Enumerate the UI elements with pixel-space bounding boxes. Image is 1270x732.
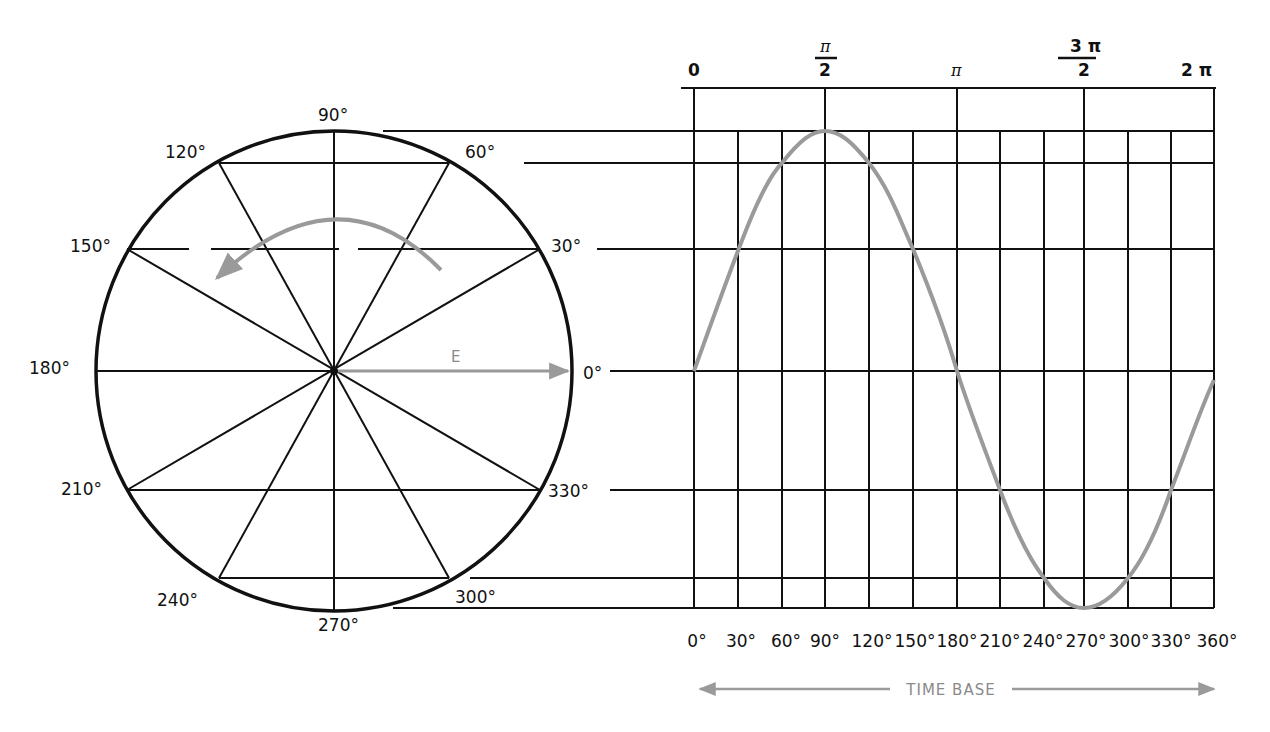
degree-label-60: 60° [771, 631, 801, 651]
angle-label-60: 60° [465, 142, 495, 162]
degree-label-300: 300° [1109, 631, 1150, 651]
angle-label-90: 90° [318, 105, 348, 125]
time-base-indicator: TIME BASE [700, 681, 1214, 699]
angle-label-30: 30° [551, 236, 581, 256]
radian-label-pi: π [950, 61, 962, 80]
degree-label-90: 90° [810, 631, 840, 651]
angle-label-180: 180° [29, 358, 70, 378]
degree-label-180: 180° [937, 631, 978, 651]
angle-label-330: 330° [548, 481, 589, 501]
radian-label-pi-half-den: 2 [819, 60, 831, 80]
center-point [330, 367, 338, 375]
degree-label-360: 360° [1197, 631, 1238, 651]
angle-label-0: 0° [583, 363, 602, 383]
radian-label-pi-half-num: π [819, 37, 831, 56]
angle-label-300: 300° [455, 587, 496, 607]
angle-label-150: 150° [70, 236, 111, 256]
radian-label-3pi-half-den: 2 [1078, 60, 1090, 80]
degree-label-270: 270° [1066, 631, 1107, 651]
sine-wave-curve [694, 131, 1214, 608]
time-base-label: TIME BASE [905, 681, 995, 699]
degree-axis-labels: 0° 30° 60° 90° 120° 150° 180° 210° 240° … [687, 631, 1237, 651]
degree-label-240: 240° [1023, 631, 1064, 651]
radian-label-3pi-half-num: 3 π [1070, 36, 1101, 56]
angle-label-120: 120° [165, 142, 206, 162]
degree-label-0: 0° [687, 631, 706, 651]
vector-e-label: E [451, 348, 461, 366]
radian-label-0: 0 [688, 60, 700, 80]
degree-label-210: 210° [980, 631, 1021, 651]
sine-wave-diagram: E 90° 60° 30° 0° 330° 300° 270° 240° 210… [0, 0, 1270, 732]
radian-axis-labels: 0 π 2 π 3 π 2 2 π [688, 36, 1212, 80]
angle-label-210: 210° [61, 479, 102, 499]
degree-label-150: 150° [895, 631, 936, 651]
radian-label-2pi: 2 π [1181, 60, 1212, 80]
degree-label-330: 330° [1151, 631, 1192, 651]
degree-label-30: 30° [726, 631, 756, 651]
angle-label-270: 270° [318, 615, 359, 635]
angle-label-240: 240° [157, 590, 198, 610]
degree-label-120: 120° [852, 631, 893, 651]
